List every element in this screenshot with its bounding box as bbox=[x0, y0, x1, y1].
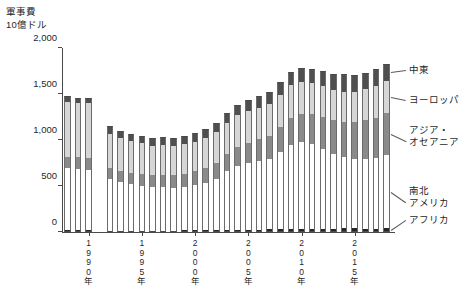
bar-1998 bbox=[170, 138, 177, 232]
bar-segment-ヨーロッパ bbox=[373, 86, 380, 118]
bar-segment-アフリカ bbox=[373, 229, 380, 232]
bar-segment-中東 bbox=[107, 126, 114, 133]
bar-segment-アジア・オセアニア bbox=[213, 163, 220, 179]
bar-segment-ヨーロッパ bbox=[181, 144, 188, 173]
bar-segment-南北アメリカ bbox=[245, 163, 252, 230]
bar-segment-南北アメリカ bbox=[213, 179, 220, 231]
callout-label-アフリカ: アフリカ bbox=[409, 214, 449, 226]
bar-segment-アジア・オセアニア bbox=[149, 175, 156, 187]
x-axis-tick-label: 2005年 bbox=[242, 239, 254, 287]
bar-segment-中東 bbox=[139, 136, 146, 144]
callout-leader-line bbox=[391, 192, 406, 203]
bar-segment-ヨーロッパ bbox=[160, 145, 167, 175]
bar-segment-ヨーロッパ bbox=[277, 95, 284, 127]
bar-segment-アジア・オセアニア bbox=[320, 117, 327, 149]
bar-segment-中東 bbox=[383, 64, 390, 81]
callout-text: 南北 bbox=[409, 185, 449, 197]
y-axis-tick-mark bbox=[58, 93, 62, 94]
bar-segment-アフリカ bbox=[128, 231, 135, 232]
bar-segment-ヨーロッパ bbox=[117, 138, 124, 171]
bar-segment-アジア・オセアニア bbox=[383, 113, 390, 155]
bar-segment-中東 bbox=[213, 123, 220, 132]
bar-1994 bbox=[128, 134, 135, 232]
bar-segment-アジア・オセアニア bbox=[128, 173, 135, 184]
bar-segment-アフリカ bbox=[330, 229, 337, 232]
x-axis-tick-mark bbox=[142, 232, 143, 236]
callout-leader-line bbox=[391, 97, 406, 101]
bar-2004 bbox=[234, 105, 241, 232]
bar-segment-アジア・オセアニア bbox=[245, 143, 252, 163]
bar-2018 bbox=[383, 64, 390, 233]
bar-segment-南北アメリカ bbox=[256, 161, 263, 230]
bar-segment-南北アメリカ bbox=[224, 171, 231, 230]
bar-2007 bbox=[266, 92, 273, 232]
bar-segment-中東 bbox=[288, 72, 295, 86]
bar-segment-南北アメリカ bbox=[373, 158, 380, 229]
bar-segment-中東 bbox=[256, 96, 263, 108]
bar-segment-中東 bbox=[330, 74, 337, 91]
bar-2002 bbox=[213, 123, 220, 232]
bar-segment-アフリカ bbox=[160, 231, 167, 232]
bar-segment-アフリカ bbox=[288, 229, 295, 232]
x-axis-tick-mark bbox=[89, 232, 90, 236]
bar-segment-南北アメリカ bbox=[64, 168, 71, 231]
bar-segment-アフリカ bbox=[170, 231, 177, 232]
bar-segment-アフリカ bbox=[202, 230, 209, 232]
bar-segment-ヨーロッパ bbox=[202, 138, 209, 168]
bar-segment-南北アメリカ bbox=[266, 159, 273, 230]
bar-segment-中東 bbox=[234, 105, 241, 115]
bar-2003 bbox=[224, 113, 231, 232]
bar-2005 bbox=[245, 100, 252, 232]
bar-segment-中東 bbox=[224, 113, 231, 123]
y-axis-tick-label: 1,000 bbox=[33, 124, 62, 135]
x-axis-tick-mark bbox=[195, 232, 196, 236]
bar-segment-中東 bbox=[192, 133, 199, 141]
bar-segment-南北アメリカ bbox=[341, 157, 348, 228]
bar-segment-中東 bbox=[320, 71, 327, 86]
bar-segment-アジア・オセアニア bbox=[373, 118, 380, 158]
bar-segment-中東 bbox=[351, 75, 358, 92]
bar-segment-中東 bbox=[298, 68, 305, 82]
callout-text: アメリカ bbox=[409, 197, 449, 209]
callout-text: アジア・ bbox=[409, 124, 459, 136]
bar-segment-アジア・オセアニア bbox=[107, 168, 114, 179]
bar-segment-南北アメリカ bbox=[234, 166, 241, 230]
bar-segment-南北アメリカ bbox=[202, 183, 209, 230]
bar-segment-中東 bbox=[149, 138, 156, 146]
y-axis-tick-mark bbox=[58, 185, 62, 186]
bar-segment-中東 bbox=[181, 136, 188, 144]
callout-leader-line bbox=[391, 220, 406, 231]
bar-segment-アジア・オセアニア bbox=[277, 127, 284, 151]
bar-segment-ヨーロッパ bbox=[170, 146, 177, 175]
bar-segment-ヨーロッパ bbox=[320, 86, 327, 117]
bar-segment-アフリカ bbox=[117, 231, 124, 232]
bar-1993 bbox=[117, 131, 124, 232]
bar-segment-アフリカ bbox=[309, 229, 316, 232]
y-axis-tick-mark bbox=[58, 231, 62, 232]
bar-segment-中東 bbox=[202, 129, 209, 138]
bar-1996 bbox=[149, 138, 156, 232]
bar-2009 bbox=[288, 72, 295, 232]
callout-text: アフリカ bbox=[409, 214, 449, 226]
y-axis-tick-label: 500 bbox=[41, 170, 62, 181]
bar-segment-アフリカ bbox=[224, 230, 231, 232]
x-axis-tick-label: 2000年 bbox=[189, 239, 201, 287]
bar-1988 bbox=[64, 96, 71, 232]
bar-segment-アジア・オセアニア bbox=[234, 147, 241, 165]
bar-segment-アジア・オセアニア bbox=[192, 171, 199, 185]
bar-segment-南北アメリカ bbox=[309, 144, 316, 229]
bar-segment-ヨーロッパ bbox=[139, 143, 146, 174]
bar-segment-南北アメリカ bbox=[117, 182, 124, 231]
bar-segment-ヨーロッパ bbox=[266, 104, 273, 136]
bar-segment-ヨーロッパ bbox=[234, 115, 241, 147]
bar-segment-アフリカ bbox=[181, 230, 188, 232]
bar-segment-南北アメリカ bbox=[128, 184, 135, 230]
bar-segment-アジア・オセアニア bbox=[139, 174, 146, 186]
bar-1990 bbox=[85, 98, 92, 232]
bar-segment-アフリカ bbox=[383, 228, 390, 232]
bar-2012 bbox=[320, 71, 327, 232]
callout-leader-line bbox=[391, 70, 406, 73]
bar-segment-南北アメリカ bbox=[277, 152, 284, 229]
bar-segment-アフリカ bbox=[341, 228, 348, 232]
bar-segment-アジア・オセアニア bbox=[85, 158, 92, 169]
